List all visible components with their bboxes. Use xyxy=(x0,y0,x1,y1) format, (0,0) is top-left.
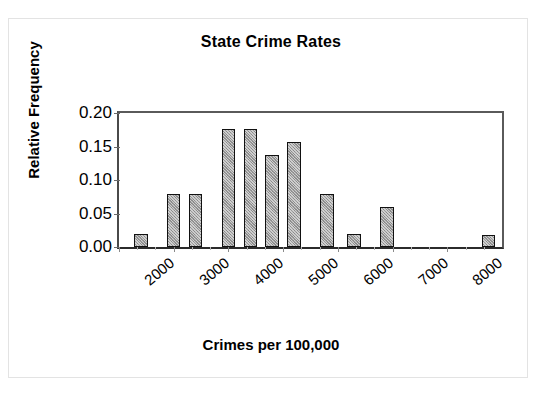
x-tick-mark xyxy=(338,247,339,252)
x-tick-minor-mark xyxy=(192,247,193,250)
chart-title: State Crime Rates xyxy=(0,33,542,51)
x-tick-minor-mark xyxy=(411,247,412,250)
bar xyxy=(380,207,394,247)
bar xyxy=(482,235,496,247)
x-axis-title: Crimes per 100,000 xyxy=(0,336,542,353)
x-tick-minor-mark xyxy=(356,247,357,250)
bar xyxy=(222,129,236,247)
y-axis-title: Relative Frequency xyxy=(25,30,45,190)
y-tick-label: 0.00 xyxy=(79,237,112,257)
x-tick-mark xyxy=(174,247,175,252)
x-tick-minor-mark xyxy=(466,247,467,250)
bar xyxy=(189,194,203,247)
bar xyxy=(265,155,279,247)
x-tick-minor-mark xyxy=(320,247,321,250)
chart-figure: State Crime Rates Relative Frequency 0.0… xyxy=(0,0,542,394)
bar xyxy=(320,194,334,247)
x-tick-minor-mark xyxy=(374,247,375,250)
y-tick-label: 0.10 xyxy=(79,170,112,190)
x-tick-minor-mark xyxy=(137,247,138,250)
y-tick-label: 0.20 xyxy=(79,103,112,123)
x-tick-mark xyxy=(393,247,394,252)
bars-group xyxy=(119,113,502,247)
x-tick-minor-mark xyxy=(484,247,485,250)
y-tick-label: 0.05 xyxy=(79,204,112,224)
x-tick-minor-mark xyxy=(429,247,430,250)
bar xyxy=(244,129,258,247)
x-tick-minor-mark xyxy=(301,247,302,250)
bar xyxy=(287,142,301,247)
x-tick-minor-mark xyxy=(247,247,248,250)
bar xyxy=(167,194,181,247)
bar xyxy=(347,234,361,247)
y-tick-label: 0.15 xyxy=(79,137,112,157)
plot-area: 0.000.050.100.150.20 2000300040005000600… xyxy=(117,111,504,249)
x-tick-minor-mark xyxy=(210,247,211,250)
bar xyxy=(134,234,148,247)
x-tick-minor-mark xyxy=(265,247,266,250)
x-tick-mark xyxy=(228,247,229,252)
x-tick-mark xyxy=(447,247,448,252)
x-tick-minor-mark xyxy=(155,247,156,250)
x-tick-mark xyxy=(119,247,120,252)
x-tick-mark xyxy=(283,247,284,252)
